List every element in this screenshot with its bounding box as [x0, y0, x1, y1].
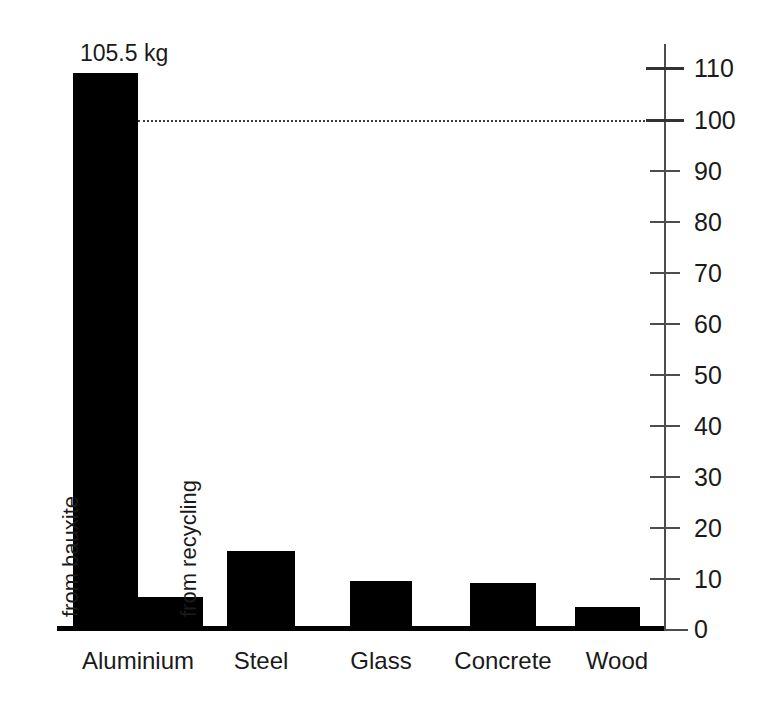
axis-tick-90	[650, 170, 680, 172]
axis-tick-label-100: 100	[694, 108, 736, 133]
reference-line-100	[138, 120, 665, 122]
axis-tick-label-0: 0	[694, 617, 708, 642]
axis-tick-0	[666, 629, 688, 631]
axis-tick-40	[650, 425, 680, 427]
axis-spine	[664, 44, 666, 631]
category-label-wood: Wood	[562, 648, 672, 674]
bar-note-from-recycling: from recycling	[178, 480, 200, 617]
axis-tick-label-30: 30	[694, 465, 722, 490]
axis-tick-100	[646, 119, 684, 122]
category-label-concrete: Concrete	[437, 648, 569, 674]
bar-concrete	[470, 583, 536, 629]
axis-tick-10	[650, 578, 680, 580]
axis-tick-50	[650, 374, 680, 376]
bar-note-from-bauxite: from bauxite	[60, 496, 82, 617]
axis-tick-label-70: 70	[694, 261, 722, 286]
axis-tick-label-50: 50	[694, 363, 722, 388]
axis-tick-label-90: 90	[694, 159, 722, 184]
axis-baseline	[57, 626, 665, 631]
axis-tick-110	[646, 67, 684, 70]
plot-area: 105.5 kg from bauxite from recycling	[0, 0, 767, 708]
axis-tick-label-110: 110	[694, 56, 734, 81]
bar-steel	[227, 551, 295, 629]
category-label-glass: Glass	[321, 648, 441, 674]
axis-tick-60	[650, 323, 680, 325]
data-label-peak: 105.5 kg	[80, 42, 168, 65]
category-label-aluminium: Aluminium	[58, 648, 218, 674]
bar-glass	[350, 581, 412, 629]
axis-tick-70	[650, 272, 680, 274]
category-label-steel: Steel	[201, 648, 321, 674]
axis-tick-label-10: 10	[694, 567, 722, 592]
bar-chart: 105.5 kg from bauxite from recycling 110…	[0, 0, 767, 708]
axis-tick-label-80: 80	[694, 210, 722, 235]
axis-tick-label-20: 20	[694, 516, 722, 541]
axis-tick-label-60: 60	[694, 312, 722, 337]
axis-tick-80	[650, 221, 680, 223]
axis-tick-label-40: 40	[694, 414, 722, 439]
axis-tick-20	[650, 527, 680, 529]
axis-tick-30	[650, 476, 680, 478]
